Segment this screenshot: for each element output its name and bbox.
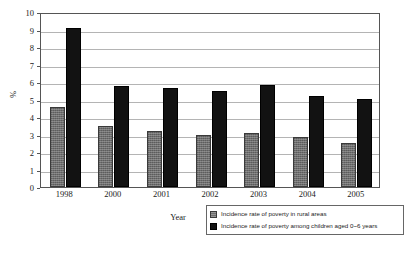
y-tick-label: 7 — [30, 61, 34, 70]
legend-item: Incidence rate of poverty in rural areas — [210, 208, 400, 220]
plot-area — [40, 13, 380, 188]
bar-chart: % 012345678910 1998200020012002200320042… — [0, 0, 408, 256]
legend-item-label: Incidence rate of poverty in rural areas — [221, 211, 327, 218]
y-tick-label: 0 — [30, 184, 34, 193]
legend-item: Incidence rate of poverty among children… — [210, 220, 400, 232]
bar — [357, 99, 372, 187]
bar — [147, 131, 162, 187]
y-tick-label: 1 — [30, 166, 34, 175]
bar-group — [244, 14, 275, 187]
y-tick-label: 9 — [30, 26, 34, 35]
bar — [341, 143, 356, 187]
bar — [66, 28, 81, 187]
bar — [196, 135, 211, 188]
gray-hatched-swatch — [210, 211, 217, 218]
x-tick-label: 2001 — [153, 190, 170, 199]
bar — [212, 91, 227, 187]
bar-group — [293, 14, 324, 187]
bar — [309, 96, 324, 187]
x-tick-label: 1998 — [56, 190, 73, 199]
x-axis-title: Year — [158, 212, 198, 222]
y-axis-tick-labels: 012345678910 — [0, 13, 40, 188]
bar — [98, 126, 113, 187]
bar — [244, 133, 259, 187]
bar — [293, 137, 308, 187]
y-tick-mark — [37, 188, 40, 189]
bar-group — [50, 14, 81, 187]
x-tick-label: 2004 — [299, 190, 316, 199]
y-tick-label: 5 — [30, 96, 34, 105]
bar-group — [341, 14, 372, 187]
y-tick-label: 4 — [30, 114, 34, 123]
x-tick-label: 2003 — [250, 190, 267, 199]
bar — [50, 107, 65, 188]
y-tick-label: 2 — [30, 149, 34, 158]
x-tick-label: 2005 — [347, 190, 364, 199]
bar — [114, 86, 129, 187]
bar — [260, 85, 275, 187]
y-tick-label: 6 — [30, 79, 34, 88]
black-swatch — [210, 223, 217, 230]
y-tick-label: 10 — [26, 9, 35, 18]
chart-legend: Incidence rate of poverty in rural areas… — [206, 205, 404, 235]
x-tick-label: 2000 — [104, 190, 121, 199]
bar-group — [147, 14, 178, 187]
y-tick-label: 8 — [30, 44, 34, 53]
legend-item-label: Incidence rate of poverty among children… — [221, 223, 377, 230]
bar — [163, 88, 178, 187]
x-axis-tick-labels: 1998200020012002200320042005 — [40, 190, 380, 204]
bars-layer — [41, 14, 379, 187]
x-tick-label: 2002 — [202, 190, 219, 199]
y-tick-label: 3 — [30, 131, 34, 140]
bar-group — [196, 14, 227, 187]
bar-group — [98, 14, 129, 187]
